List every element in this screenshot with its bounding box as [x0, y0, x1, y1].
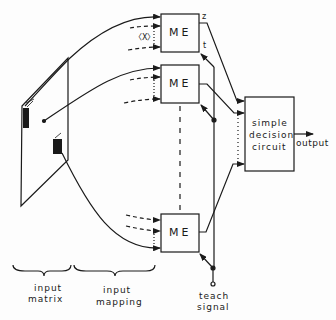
decision-label-2: decision: [249, 131, 294, 140]
me-network-diagram: ME ME ME 〈X〉 z t simple decision circuit…: [0, 0, 336, 320]
decision-label-1: simple: [252, 119, 288, 128]
teach-label-1: teach: [199, 292, 229, 301]
input-mapping-label-2: mapping: [96, 298, 143, 307]
me-module-1-label: ME: [169, 27, 191, 38]
brace-input-matrix: [13, 265, 71, 276]
me-module-2-label: ME: [169, 78, 191, 89]
z-output-label: z: [202, 13, 206, 21]
input-matrix-label-1: input: [34, 284, 62, 293]
input-vector-label: 〈X〉: [134, 34, 155, 42]
decision-label-3: circuit: [252, 143, 287, 152]
t-input-label: t: [203, 42, 206, 50]
teach-label-2: signal: [197, 303, 230, 312]
me-module-3-label: ME: [169, 227, 191, 238]
brace-input-mapping: [74, 265, 155, 276]
diagram-lines: [0, 0, 336, 320]
input-matrix: [21, 58, 68, 206]
input-mapping-label-1: input: [103, 286, 131, 295]
input-matrix-label-2: matrix: [28, 295, 63, 304]
teach-signal-terminal: [211, 282, 215, 286]
output-label: output: [296, 139, 329, 148]
